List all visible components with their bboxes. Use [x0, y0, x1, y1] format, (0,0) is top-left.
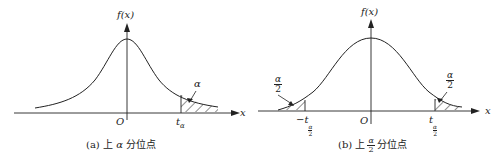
y-axis-arrow-icon	[124, 23, 130, 32]
figure-canvas	[0, 0, 500, 167]
density-curve	[35, 39, 218, 108]
x-axis-arrow-icon	[231, 110, 240, 116]
x-axis-arrow-icon	[471, 108, 480, 114]
y-axis-label: f(x)	[117, 10, 134, 20]
quantile-label: tα	[176, 117, 185, 130]
density-curve	[278, 38, 462, 110]
y-axis-label: f(x)	[361, 7, 378, 17]
x-axis-label: x	[240, 108, 246, 118]
y-axis-arrow-icon	[368, 19, 374, 28]
x-axis-label: x	[485, 106, 491, 116]
panel-a-plot	[14, 23, 240, 120]
right-tail-area-label: α2	[446, 71, 454, 90]
left-quantile-label: −tα2	[296, 115, 312, 137]
origin-label: O	[360, 116, 368, 126]
tail-area-label: α	[194, 79, 201, 89]
caption-b: (b) 上α2分位点	[338, 137, 407, 154]
origin-label: O	[116, 117, 124, 127]
left-tail-area-label: α2	[274, 75, 282, 94]
right-quantile-label: tα2	[429, 115, 437, 137]
caption-a: (a) 上 α 分位点	[86, 140, 156, 150]
